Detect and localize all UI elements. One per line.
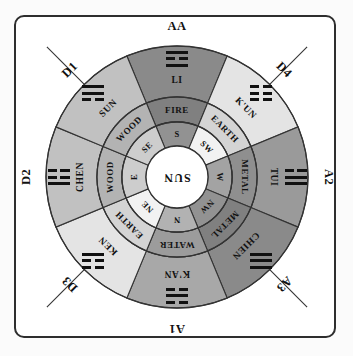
diagram-canvas: AALIFIRESD4K'UNEARTHSWA2TUIMETALWA3CHIEN…	[0, 0, 353, 356]
bagua-wheel	[0, 0, 353, 356]
